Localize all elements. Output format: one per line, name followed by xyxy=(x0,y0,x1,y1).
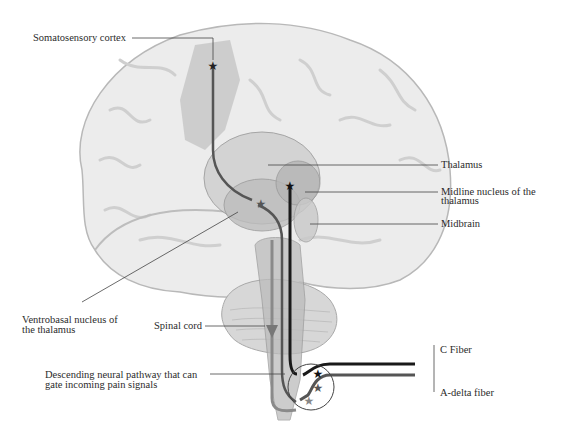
label-midline-nucleus-2: thalamus xyxy=(441,196,479,206)
label-ventrobasal-2: the thalamus xyxy=(22,325,75,335)
svg-text:★: ★ xyxy=(313,367,324,381)
svg-text:★: ★ xyxy=(256,197,267,211)
label-thalamus: Thalamus xyxy=(441,160,482,170)
svg-text:★: ★ xyxy=(304,394,315,408)
label-spinal-cord: Spinal cord xyxy=(154,321,202,331)
label-midbrain: Midbrain xyxy=(441,219,480,229)
midline-nucleus xyxy=(276,161,320,205)
label-c-fiber: C Fiber xyxy=(440,345,472,355)
label-descending-2: gate incoming pain signals xyxy=(45,380,157,390)
midbrain xyxy=(294,198,318,242)
label-a-delta-fiber: A-delta fiber xyxy=(440,388,494,398)
svg-text:★: ★ xyxy=(285,179,296,193)
svg-text:★: ★ xyxy=(313,381,324,395)
svg-text:★: ★ xyxy=(208,59,219,73)
label-somatosensory-cortex: Somatosensory cortex xyxy=(33,33,126,43)
